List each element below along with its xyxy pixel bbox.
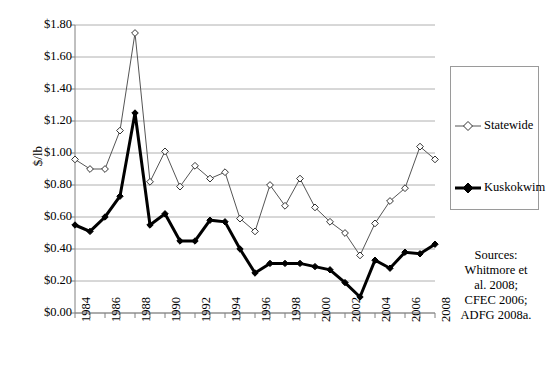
x-axis-tick-label: 1990 <box>170 297 183 322</box>
x-axis-tick-label: 2000 <box>320 297 333 322</box>
sources-line: ADFG 2008a. <box>446 308 546 323</box>
legend-entry-statewide[interactable]: Statewide <box>455 118 533 133</box>
x-axis-tick-label: 1984 <box>80 297 93 322</box>
x-axis-tick-label: 2004 <box>380 297 393 322</box>
legend-marker-statewide-icon <box>455 120 481 132</box>
legend-marker-kuskokwim-icon <box>455 182 481 194</box>
sources-line: CFEC 2006; <box>446 293 546 308</box>
x-axis-tick-label: 1988 <box>140 297 153 322</box>
x-axis-tick-label: 1998 <box>290 297 303 322</box>
legend-entry-kuskokwim[interactable]: Kuskokwim <box>455 180 545 195</box>
legend-label-kuskokwim: Kuskokwim <box>484 180 545 195</box>
price-per-pound-line-chart: $/lb $0.00$0.20$0.40$0.60$0.80$1.00$1.20… <box>0 0 556 365</box>
x-axis-tick-label: 1996 <box>260 297 273 322</box>
legend-label-statewide: Statewide <box>484 118 533 133</box>
legend: Statewide Kuskokwim <box>450 66 539 210</box>
x-axis-tick-label: 1986 <box>110 297 123 322</box>
x-axis-tick-label: 1994 <box>230 297 243 322</box>
sources-line: Sources: <box>446 248 546 263</box>
x-axis-tick-label: 1992 <box>200 297 213 322</box>
x-axis-tick-label: 2002 <box>350 297 363 322</box>
sources-note: Sources:Whitmore etal. 2008;CFEC 2006;AD… <box>446 248 546 323</box>
sources-line: al. 2008; <box>446 278 546 293</box>
x-axis-tick-label: 2006 <box>410 297 423 322</box>
sources-line: Whitmore et <box>446 263 546 278</box>
